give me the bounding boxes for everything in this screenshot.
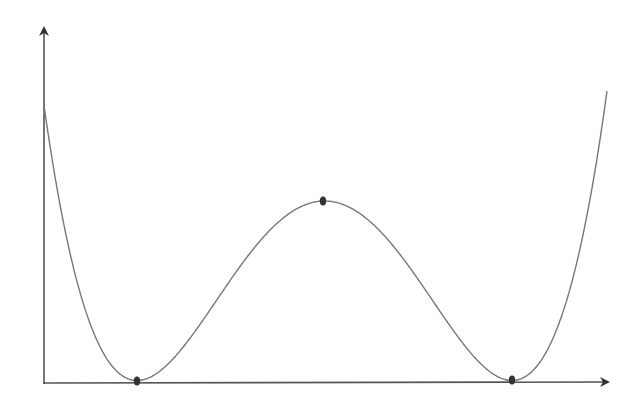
double-well-diagram xyxy=(0,0,642,406)
x-axis xyxy=(43,382,608,383)
central-maximum-point xyxy=(320,197,326,206)
right-minimum-point xyxy=(509,376,515,385)
left-minimum-point xyxy=(134,377,140,386)
potential-curve xyxy=(44,91,607,381)
